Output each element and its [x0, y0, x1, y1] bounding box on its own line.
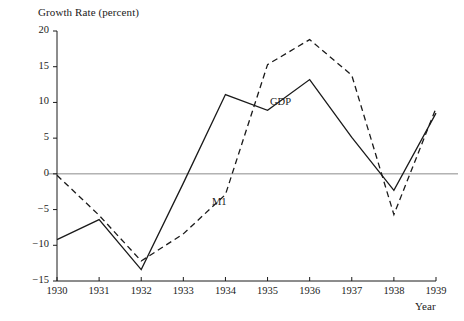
y-tick-label: 15	[23, 60, 49, 71]
y-axis-title: Growth Rate (percent)	[38, 6, 139, 18]
x-tick-label: 1938	[374, 285, 414, 296]
series-line-gdp	[57, 80, 436, 270]
y-tick-label: −5	[23, 203, 49, 214]
x-tick-label: 1939	[416, 285, 456, 296]
x-tick-label: 1930	[37, 285, 77, 296]
x-tick-label: 1932	[121, 285, 161, 296]
y-tick-label: 0	[23, 167, 49, 178]
y-tick-label: −10	[23, 238, 49, 249]
chart-plot-area	[0, 0, 464, 321]
y-tick-label: 10	[23, 95, 49, 106]
series-label-gdp: GDP	[270, 96, 291, 107]
y-tick-label: 5	[23, 131, 49, 142]
x-tick-label: 1934	[205, 285, 245, 296]
series-label-m1: M1	[212, 196, 227, 207]
x-tick-label: 1935	[248, 285, 288, 296]
x-tick-label: 1937	[332, 285, 372, 296]
x-tick-label: 1936	[290, 285, 330, 296]
growth-rate-chart-figure: Growth Rate (percent) Year M1 GDP 201510…	[0, 0, 464, 321]
x-tick-label: 1931	[79, 285, 119, 296]
x-tick-label: 1933	[163, 285, 203, 296]
y-tick-label: 20	[23, 24, 49, 35]
x-axis-title: Year	[415, 300, 436, 312]
series-line-m1	[57, 40, 436, 261]
y-tick-label: −15	[23, 274, 49, 285]
